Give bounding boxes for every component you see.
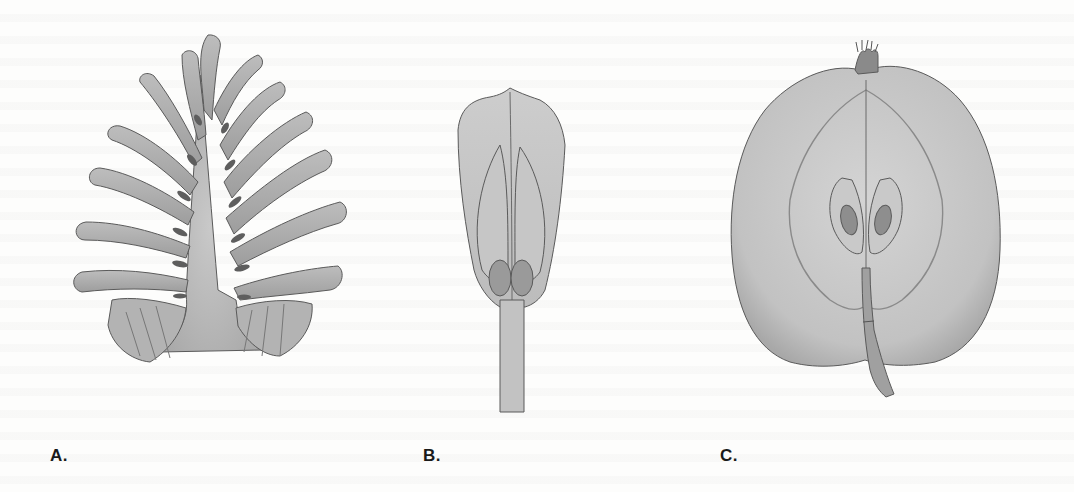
panel-b-illustration bbox=[458, 88, 565, 412]
panel-c-illustration bbox=[731, 40, 1000, 397]
panel-b-label: B. bbox=[423, 446, 441, 466]
panel-a-label: A. bbox=[50, 446, 68, 466]
figure-illustrations bbox=[0, 0, 1074, 492]
panel-c-label: C. bbox=[720, 446, 738, 466]
figure-page: A. B. C. bbox=[0, 0, 1074, 492]
panel-a-illustration bbox=[74, 35, 347, 362]
